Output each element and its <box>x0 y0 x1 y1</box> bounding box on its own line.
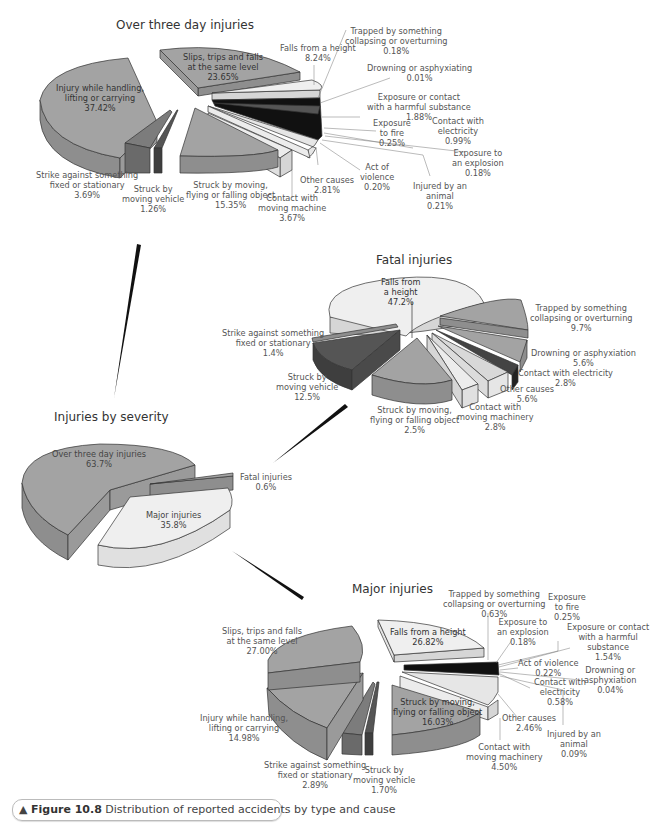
caption-figure-number: Figure 10.8 <box>31 803 102 816</box>
major-label-electricity: Contact with electricity 0.58% <box>534 677 586 707</box>
over3-label-trapped: Trapped by something collapsing or overt… <box>345 26 448 56</box>
fatal-label-falls: Falls from a height 47.2% <box>381 277 420 307</box>
over3-label-strike: Strike against something fixed or statio… <box>36 170 138 200</box>
fatal-label-drowning: Drowning or asphyxiation 5.6% <box>531 348 636 368</box>
major-label-other: Other causes 2.46% <box>502 713 556 733</box>
connector-severity-to-over3 <box>114 244 141 398</box>
connector-severity-to-fatal <box>273 404 348 463</box>
over3-label-object: Struck by moving, flying or falling obje… <box>186 180 275 210</box>
major-title: Major injuries <box>352 582 433 596</box>
major-label-drowning: Drowning or asphyxiation 0.04% <box>584 665 636 695</box>
fatal-label-machinery: Contact with moving machinery 2.8% <box>457 402 534 432</box>
figure-caption: ▲ Figure 10.8 Distribution of reported a… <box>12 799 282 821</box>
major-label-object: Struck by moving, flying or falling obje… <box>393 697 482 727</box>
severity-label-major: Major injuries 35.8% <box>146 510 201 530</box>
fatal-label-strike: Strike against something fixed or statio… <box>222 328 324 358</box>
over3-label-other: Other causes 2.81% <box>300 175 354 195</box>
over3-slice-vehicle-side <box>154 148 162 173</box>
fatal-label-trapped: Trapped by something collapsing or overt… <box>530 303 633 333</box>
severity-label-over3: Over three day injuries 63.7% <box>52 449 146 469</box>
over3-label-drowning: Drowning or asphyxiating 0.01% <box>367 63 472 83</box>
severity-title: Injuries by severity <box>54 410 169 424</box>
major-label-handling: Injury while handling, lifting or carryi… <box>200 713 288 743</box>
major-label-explosion: Exposure to an explosion 0.18% <box>497 617 549 647</box>
major-label-strike: Strike against something fixed or statio… <box>264 760 366 790</box>
caption-text: Distribution of reported accidents by ty… <box>105 803 395 816</box>
major-label-fire: Exposure to fire 0.25% <box>548 592 586 622</box>
fatal-label-other: Other causes 5.6% <box>500 384 554 404</box>
over3-label-violence: Act of violence 0.20% <box>360 162 394 192</box>
over3-label-handling: Injury while handling, lifting or carryi… <box>56 83 144 113</box>
major-label-slips: Slips, trips and falls at the same level… <box>222 626 302 656</box>
major-label-animal: Injured by an animal 0.09% <box>547 729 601 759</box>
major-label-machinery: Contact with moving machinery 4.50% <box>466 742 543 772</box>
major-slice-strike-side <box>342 733 362 755</box>
over3-label-electricity: Contact with electricity 0.99% <box>432 116 484 146</box>
fatal-title: Fatal injuries <box>376 253 452 267</box>
over3-label-slips: Slips, trips and falls at the same level… <box>183 52 263 82</box>
over3-label-animal: Injured by an animal 0.21% <box>413 181 467 211</box>
fatal-label-object: Struck by moving, flying or falling obje… <box>370 405 459 435</box>
over3-label-explosion: Exposure to an explosion 0.18% <box>452 148 504 178</box>
major-label-trapped: Trapped by something collapsing or overt… <box>443 589 546 619</box>
connector-severity-to-major <box>232 551 304 600</box>
major-slice-vehicle-side <box>365 733 373 755</box>
severity-label-fatal: Fatal injuries 0.6% <box>240 472 292 492</box>
caption-triangle-icon: ▲ <box>19 803 27 816</box>
over3-title: Over three day injuries <box>116 18 254 32</box>
major-label-violence: Act of violence 0.22% <box>518 658 578 678</box>
over3-slice-strike-side <box>125 143 150 173</box>
major-label-falls: Falls from a height 26.82% <box>390 627 466 647</box>
major-label-harmful: Exposure or contact with a harmful subst… <box>567 622 649 662</box>
over3-label-fire: Exposure to fire 0.25% <box>373 118 411 148</box>
fatal-label-vehicle: Struck by moving vehicle 12.5% <box>276 372 338 402</box>
